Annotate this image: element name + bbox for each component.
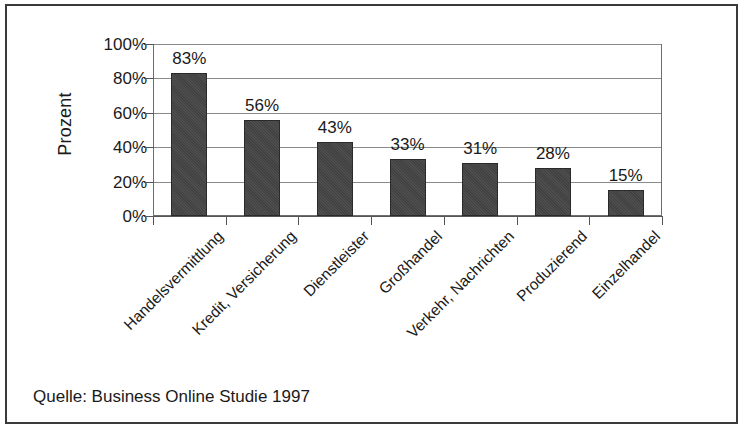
y-axis-tick-label: 20% xyxy=(85,174,147,191)
bar xyxy=(608,190,644,216)
bar xyxy=(317,142,353,216)
x-axis-tick-mark xyxy=(662,217,663,225)
gridline xyxy=(154,78,661,79)
bar-value-label: 15% xyxy=(586,167,666,184)
bar xyxy=(244,120,280,216)
x-axis-tick-mark xyxy=(517,217,518,225)
y-axis-tick-label: 40% xyxy=(85,139,147,156)
x-axis-category-label: Produzierend xyxy=(514,228,591,305)
source-caption: Quelle: Business Online Studie 1997 xyxy=(33,387,310,407)
y-axis-tick-mark xyxy=(144,113,154,114)
x-axis-line xyxy=(153,216,663,217)
y-axis-tick-label: 60% xyxy=(85,105,147,122)
bar-chart: Prozent 100%80%60%40%20%0% 83%Handelsver… xyxy=(7,6,740,426)
bar xyxy=(462,163,498,216)
x-axis-tick-mark xyxy=(298,217,299,225)
bar-value-label: 28% xyxy=(513,145,593,162)
gridline xyxy=(154,44,661,45)
y-axis-tick-mark xyxy=(144,216,154,217)
bar-value-label: 43% xyxy=(295,119,375,136)
y-axis-tick-mark xyxy=(144,44,154,45)
bar-value-label: 83% xyxy=(149,50,229,67)
x-axis-category-label: Einzelhandel xyxy=(589,228,663,302)
y-axis-tick-mark xyxy=(144,182,154,183)
x-axis-category-label: Dienstleister xyxy=(300,228,372,300)
x-axis-tick-mark xyxy=(226,217,227,225)
x-axis-tick-mark xyxy=(153,217,154,225)
y-axis-tick-mark xyxy=(144,147,154,148)
bar xyxy=(171,73,207,216)
y-axis-tick-label: 0% xyxy=(85,208,147,225)
bar-value-label: 56% xyxy=(222,97,302,114)
y-axis-tick-label: 80% xyxy=(85,70,147,87)
bar xyxy=(535,168,571,216)
x-axis-category-label: Großhandel xyxy=(376,228,445,297)
y-axis-tick-label: 100% xyxy=(85,36,147,53)
x-axis-tick-mark xyxy=(589,217,590,225)
bar xyxy=(390,159,426,216)
bar-value-label: 33% xyxy=(368,136,448,153)
figure-border: Prozent 100%80%60%40%20%0% 83%Handelsver… xyxy=(5,4,738,424)
y-axis-tick-mark xyxy=(144,78,154,79)
bar-value-label: 31% xyxy=(440,140,520,157)
x-axis-tick-mark xyxy=(444,217,445,225)
y-axis-tick-labels: 100%80%60%40%20%0% xyxy=(85,32,147,216)
x-axis-tick-mark xyxy=(371,217,372,225)
